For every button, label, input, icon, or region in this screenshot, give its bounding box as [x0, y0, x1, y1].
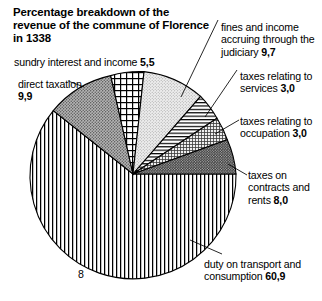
- slice-label-fines-judiciary: fines and income accruing through the ju…: [221, 21, 321, 58]
- slice-value-fines: 9,7: [261, 46, 275, 58]
- slice-label-taxes-occupation: taxes relating to occupation 3,0: [240, 115, 320, 140]
- slice-value-sundry: 5,5: [140, 56, 154, 68]
- slice-label-duty-text: duty on transport and consumption: [204, 258, 301, 282]
- slice-label-direct-text: direct taxation: [18, 78, 82, 90]
- slice-label-sundry-text: sundry interest and income: [14, 56, 140, 68]
- slice-label-sundry-interest: sundry interest and income 5,5: [14, 56, 204, 68]
- slice-label-taxes-services: taxes relating to services 3,0: [240, 70, 320, 95]
- slice-value-direct: 9,9: [18, 90, 32, 102]
- slice-label-taxes-contracts-rents: taxes on contracts and rents 8,0: [248, 169, 322, 206]
- chart-title: Percentage breakdown of the revenue of t…: [13, 6, 213, 46]
- figure-number: 8: [78, 268, 98, 280]
- slice-value-contracts: 8,0: [274, 194, 288, 206]
- slice-label-services-text: taxes relating to services: [240, 70, 312, 94]
- leader-line-services: [205, 70, 237, 117]
- slice-value-occupation: 3,0: [293, 127, 307, 139]
- slice-value-services: 3,0: [280, 82, 294, 94]
- slice-value-duty: 60,9: [265, 270, 285, 282]
- pie-chart-figure: Percentage breakdown of the revenue of t…: [0, 0, 322, 301]
- slice-label-direct-taxation: direct taxation 9,9: [18, 78, 88, 103]
- slice-label-duty-transport-consumption: duty on transport and consumption 60,9: [204, 258, 322, 283]
